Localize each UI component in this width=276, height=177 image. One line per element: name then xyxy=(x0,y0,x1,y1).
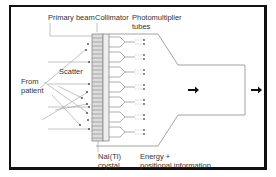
label-pmt-line2: tubes xyxy=(132,22,150,31)
label-pmt-line1: Photomultiplier xyxy=(132,13,182,22)
label-crystal-line2: crystal xyxy=(98,161,120,170)
gamma-rays xyxy=(40,50,90,129)
output-arrows xyxy=(188,87,262,94)
label-from-line2: patient xyxy=(21,86,44,95)
nai-crystal xyxy=(103,34,109,141)
arrow-right-icon xyxy=(251,87,262,94)
label-leaders xyxy=(50,23,98,152)
label-primary-beam: Primary beam xyxy=(48,13,95,22)
arrow-right-icon xyxy=(188,87,199,94)
label-scatter: Scatter xyxy=(59,67,83,76)
photomultiplier-tubes xyxy=(109,37,135,137)
ray-dots xyxy=(79,43,90,130)
detector-housing xyxy=(96,34,245,146)
pmt-output-dots xyxy=(143,39,145,135)
collimator xyxy=(92,34,103,141)
label-output-line1: Energy + xyxy=(140,152,170,161)
label-collimator: Collimator xyxy=(95,13,129,22)
label-crystal-line1: NaI(Tl) xyxy=(98,152,121,161)
pmt-outputs xyxy=(135,40,143,134)
label-output-line2: positional information xyxy=(140,161,211,170)
label-from-line1: From xyxy=(21,77,39,86)
